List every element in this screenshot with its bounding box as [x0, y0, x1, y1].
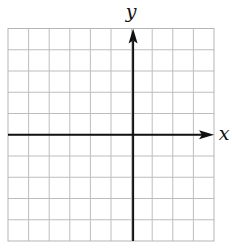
x-axis-label: x	[219, 122, 230, 144]
y-axis-label: y	[125, 0, 137, 22]
coordinate-plane: x y	[0, 0, 232, 248]
